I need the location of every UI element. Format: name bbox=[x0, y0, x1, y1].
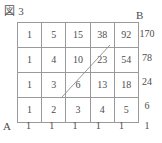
column-footer: 1 bbox=[40, 119, 63, 133]
grid-cell: 5 bbox=[42, 23, 66, 48]
vertex-label-b: B bbox=[136, 9, 143, 21]
row-total: 78 bbox=[134, 46, 160, 70]
grid-cell: 15 bbox=[66, 23, 90, 48]
table-row: 1 4 10 23 54 bbox=[18, 48, 139, 73]
column-footer: 1 bbox=[87, 119, 110, 133]
column-footer: 1 bbox=[110, 119, 133, 133]
row-total: 170 bbox=[134, 22, 160, 46]
table-row: 1 5 15 38 92 bbox=[18, 23, 139, 48]
vertex-label-a: A bbox=[3, 120, 11, 132]
row-total: 6 bbox=[134, 94, 160, 118]
grid-cell: 6 bbox=[66, 73, 90, 98]
grid-cell: 1 bbox=[18, 73, 42, 98]
grid-cell: 4 bbox=[42, 48, 66, 73]
row-total: 24 bbox=[134, 70, 160, 94]
corner-footer: 1 bbox=[134, 119, 160, 133]
grid-cell: 38 bbox=[90, 23, 114, 48]
grid-cell: 1 bbox=[18, 48, 42, 73]
grid-cell: 13 bbox=[90, 73, 114, 98]
grid-cell: 23 bbox=[90, 48, 114, 73]
grid-cell: 10 bbox=[66, 48, 90, 73]
lattice-grid-table: 1 5 15 38 92 1 4 10 23 54 1 3 6 13 18 bbox=[17, 22, 139, 123]
grid-cell: 1 bbox=[18, 23, 42, 48]
table-row: 1 3 6 13 18 bbox=[18, 73, 139, 98]
figure-container: 図 3 B A 1 5 15 38 92 1 4 10 23 54 1 3 6 bbox=[0, 0, 162, 143]
figure-title: 図 3 bbox=[4, 5, 24, 18]
grid-cell: 3 bbox=[42, 73, 66, 98]
column-footer: 1 bbox=[17, 119, 40, 133]
column-footer: 1 bbox=[63, 119, 86, 133]
